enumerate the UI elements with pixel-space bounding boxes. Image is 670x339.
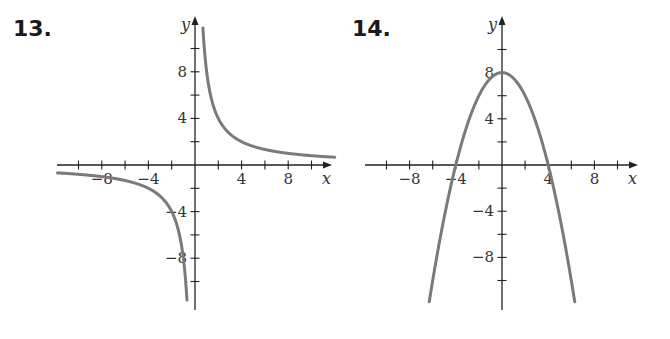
- y-axis-label: y: [487, 15, 498, 34]
- function-curve: [58, 173, 187, 300]
- graph-14: −8−44884−4−8xy: [340, 0, 670, 339]
- x-axis-label: x: [322, 169, 331, 188]
- y-axis-arrow-icon: [499, 16, 506, 25]
- graph-panel-14: 14. −8−44884−4−8xy: [340, 0, 670, 339]
- y-tick-label: 4: [484, 110, 494, 128]
- x-tick-label: −8: [399, 170, 421, 188]
- x-tick-label: 8: [590, 170, 600, 188]
- x-axis-arrow-icon: [323, 162, 332, 169]
- y-axis-label: y: [180, 15, 191, 34]
- x-tick-label: 4: [237, 170, 247, 188]
- y-axis-arrow-icon: [192, 16, 199, 25]
- x-axis-label: x: [628, 169, 637, 188]
- x-tick-label: −4: [445, 170, 467, 188]
- function-curve: [203, 28, 335, 157]
- x-axis-arrow-icon: [629, 162, 638, 169]
- y-tick-label: 4: [177, 109, 187, 127]
- y-tick-label: −4: [472, 202, 494, 220]
- graph-panel-13: 13. −8−44884−4−8xy: [0, 0, 340, 339]
- x-tick-label: 8: [283, 170, 293, 188]
- y-tick-label: 8: [177, 63, 187, 81]
- y-tick-label: −8: [472, 248, 494, 266]
- graph-13: −8−44884−4−8xy: [0, 0, 340, 339]
